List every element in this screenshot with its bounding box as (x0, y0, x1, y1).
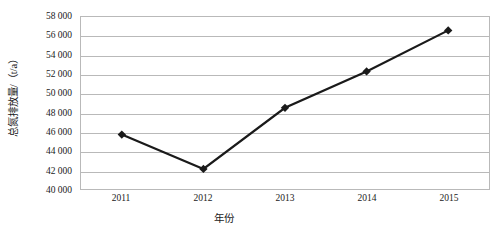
x-axis-tick-label: 2015 (440, 193, 459, 203)
y-axis-tick-label: 56 000 (46, 30, 72, 40)
y-axis-title-label: 总氮排放量/（t/a） (6, 53, 21, 136)
y-axis-tick-label: 42 000 (46, 166, 72, 176)
series-line-chart (81, 17, 489, 189)
series-polyline (122, 30, 448, 169)
plot-area (80, 16, 490, 190)
data-point-marker (362, 67, 370, 75)
x-axis-tick-label: 2011 (112, 193, 131, 203)
data-point-marker (118, 130, 126, 138)
data-point-marker (444, 26, 452, 34)
y-axis-tick-label: 48 000 (46, 108, 72, 118)
x-axis-tick-label: 2013 (276, 193, 295, 203)
y-axis-tick-labels: 58 00056 00054 00052 00050 00048 00046 0… (24, 16, 76, 190)
y-axis-title: 总氮排放量/（t/a） (0, 0, 26, 190)
y-axis-tick-label: 50 000 (46, 88, 72, 98)
y-axis-tick-label: 40 000 (46, 185, 72, 195)
y-axis-tick-label: 58 000 (46, 11, 72, 21)
y-axis-tick-label: 54 000 (46, 50, 72, 60)
x-axis-title-label: 年份 (214, 210, 234, 225)
x-axis-tick-label: 2012 (194, 193, 213, 203)
x-axis-tick-labels: 20112012201320142015 (80, 193, 490, 209)
chart-screenshot: 总氮排放量/（t/a） 58 00056 00054 00052 00050 0… (0, 0, 501, 247)
y-axis-tick-label: 52 000 (46, 69, 72, 79)
y-axis-tick-label: 46 000 (46, 127, 72, 137)
series-markers (118, 26, 453, 173)
x-axis-tick-label: 2014 (358, 193, 377, 203)
x-axis-title: 年份 (0, 210, 501, 225)
y-axis-tick-label: 44 000 (46, 146, 72, 156)
